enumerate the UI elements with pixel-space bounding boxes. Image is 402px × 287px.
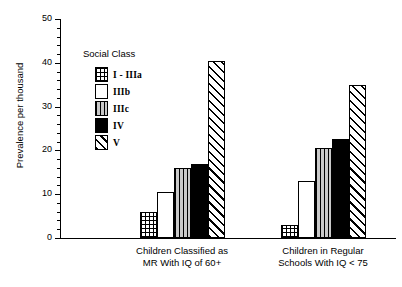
bar-group-0 xyxy=(140,61,225,238)
bar-group-1 xyxy=(281,85,366,238)
x-axis-group-label-0: Children Classified as MR With IQ of 60+ xyxy=(102,245,262,268)
y-minor-tick xyxy=(57,133,60,134)
y-minor-tick xyxy=(57,115,60,116)
legend-label-iiic: IIIc xyxy=(113,104,129,114)
y-minor-tick xyxy=(57,185,60,186)
legend-swatch-iiic xyxy=(95,101,108,116)
y-minor-tick xyxy=(57,159,60,160)
y-minor-tick xyxy=(57,168,60,169)
y-minor-tick xyxy=(57,28,60,29)
legend-label-i-iiia: I - IIIa xyxy=(113,70,142,80)
x-axis-line xyxy=(60,238,396,239)
y-minor-tick xyxy=(57,89,60,90)
bar-iiib-group0 xyxy=(157,192,174,238)
y-tick-50 xyxy=(55,19,60,20)
bar-iiib-group1 xyxy=(298,181,315,238)
y-tick-label-0: 0 xyxy=(34,233,52,242)
legend-title: Social Class xyxy=(83,48,177,59)
y-minor-tick xyxy=(57,177,60,178)
legend-swatch-iv xyxy=(95,118,108,133)
bar-chart: Prevalence per thousand 01020304050 Soci… xyxy=(0,0,402,287)
y-minor-tick xyxy=(57,54,60,55)
y-tick-0 xyxy=(55,238,60,239)
bar-v-group1 xyxy=(349,85,366,238)
y-minor-tick xyxy=(57,203,60,204)
legend-swatch-i-iiia xyxy=(95,67,108,82)
y-axis-line xyxy=(60,19,61,239)
y-minor-tick xyxy=(57,142,60,143)
legend-swatch-v xyxy=(95,135,108,150)
bar-iv-group1 xyxy=(332,139,349,238)
y-tick-label-50: 50 xyxy=(34,14,52,23)
bar-iiiia-group0 xyxy=(140,212,157,238)
y-minor-tick xyxy=(57,212,60,213)
legend-label-iiib: IIIb xyxy=(113,87,130,97)
legend-label-iv: IV xyxy=(113,121,124,131)
bar-iiic-group0 xyxy=(174,168,191,238)
y-tick-label-30: 30 xyxy=(34,102,52,111)
bar-iiiia-group1 xyxy=(281,225,298,238)
legend-label-v: V xyxy=(113,138,120,148)
y-minor-tick xyxy=(57,45,60,46)
bar-iiic-group1 xyxy=(315,148,332,238)
y-tick-label-20: 20 xyxy=(34,145,52,154)
y-axis-title: Prevalence per thousand xyxy=(14,46,25,186)
y-minor-tick xyxy=(57,124,60,125)
bar-iv-group0 xyxy=(191,164,208,238)
y-minor-tick xyxy=(57,220,60,221)
y-minor-tick xyxy=(57,80,60,81)
y-tick-20 xyxy=(55,150,60,151)
y-minor-tick xyxy=(57,98,60,99)
y-minor-tick xyxy=(57,72,60,73)
y-tick-label-10: 10 xyxy=(34,189,52,198)
y-minor-tick xyxy=(57,229,60,230)
bar-v-group0 xyxy=(208,61,225,238)
y-tick-40 xyxy=(55,63,60,64)
y-tick-10 xyxy=(55,194,60,195)
y-tick-30 xyxy=(55,107,60,108)
y-minor-tick xyxy=(57,37,60,38)
x-axis-group-label-1: Children in Regular Schools With IQ < 75 xyxy=(243,245,402,268)
legend-swatch-iiib xyxy=(95,84,108,99)
y-tick-label-40: 40 xyxy=(34,58,52,67)
